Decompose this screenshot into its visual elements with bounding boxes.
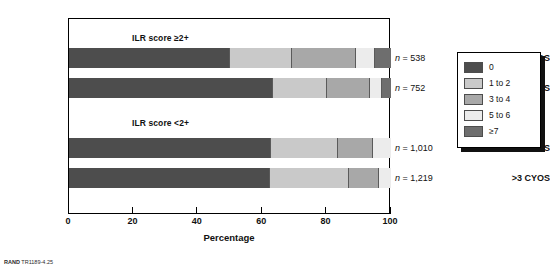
figure-id: TR1189-4.25 bbox=[21, 259, 53, 265]
legend-item[interactable]: 0 bbox=[464, 59, 535, 75]
x-tick-mark bbox=[261, 207, 262, 214]
legend-item-label: 3 to 4 bbox=[489, 94, 510, 104]
x-tick-mark bbox=[325, 207, 326, 214]
legend-item-label: 5 to 6 bbox=[489, 110, 510, 120]
x-tick-label: 100 bbox=[382, 216, 397, 226]
legend-swatch-icon bbox=[464, 126, 483, 137]
rand-logo-text: RAND bbox=[4, 259, 20, 265]
x-tick-label: 40 bbox=[192, 216, 202, 226]
legend-item[interactable]: 1 to 2 bbox=[464, 75, 535, 91]
x-tick-label: 60 bbox=[256, 216, 266, 226]
x-tick-mark bbox=[68, 207, 69, 214]
legend-item-label: ≥7 bbox=[489, 126, 498, 136]
legend-swatch-icon bbox=[464, 62, 483, 73]
figure-stacked-bar-chart: ILR score ≥2+ ILR score <2+ ≤3 CYOS >3 C… bbox=[0, 0, 550, 274]
legend-item[interactable]: ≥7 bbox=[464, 123, 535, 139]
legend-item[interactable]: 5 to 6 bbox=[464, 107, 535, 123]
x-tick-label: 0 bbox=[65, 216, 70, 226]
x-tick-mark bbox=[132, 207, 133, 214]
legend-swatch-icon bbox=[464, 94, 483, 105]
legend-swatch-icon bbox=[464, 78, 483, 89]
x-tick-label: 20 bbox=[127, 216, 137, 226]
x-tick-mark bbox=[196, 207, 197, 214]
legend-item[interactable]: 3 to 4 bbox=[464, 91, 535, 107]
legend-item-label: 1 to 2 bbox=[489, 78, 510, 88]
x-tick-mark bbox=[390, 207, 391, 214]
legend: 01 to 23 to 45 to 6≥7 bbox=[457, 52, 541, 148]
legend-item-label: 0 bbox=[489, 62, 494, 72]
x-tick-label: 80 bbox=[321, 216, 331, 226]
x-axis-title: Percentage bbox=[68, 232, 390, 243]
figure-source-note: RAND TR1189-4.25 bbox=[4, 259, 53, 265]
legend-swatch-icon bbox=[464, 110, 483, 121]
